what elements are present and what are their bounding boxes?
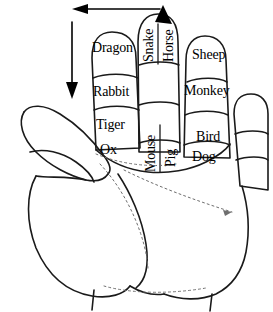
label-horse: Horse <box>162 30 176 62</box>
label-dog: Dog <box>192 150 216 164</box>
leftward-arrow-annotation <box>72 4 160 14</box>
zodiac-hand-figure: Dragon Rabbit Tiger Ox Snake Horse Mouse… <box>0 0 273 312</box>
palm-crease-lines <box>96 154 232 292</box>
hand-drawing <box>0 0 273 312</box>
downward-arrow-annotation <box>66 22 78 99</box>
label-pig: Pig <box>164 149 178 167</box>
label-rabbit: Rabbit <box>93 85 129 99</box>
label-ox: Ox <box>100 143 117 157</box>
pinky-finger-outline <box>234 94 268 190</box>
label-bird: Bird <box>196 130 220 144</box>
label-monkey: Monkey <box>184 84 229 98</box>
label-tiger: Tiger <box>96 118 125 132</box>
label-dragon: Dragon <box>92 41 133 55</box>
label-mouse: Mouse <box>144 135 158 172</box>
label-sheep: Sheep <box>192 48 225 62</box>
label-snake: Snake <box>142 29 156 62</box>
